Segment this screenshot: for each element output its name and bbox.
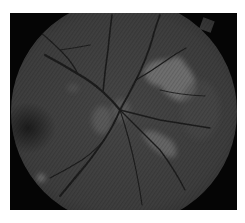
fundus-photo-frame — [10, 13, 237, 210]
fundus-disc — [10, 13, 237, 210]
fundus-image — [10, 13, 237, 210]
